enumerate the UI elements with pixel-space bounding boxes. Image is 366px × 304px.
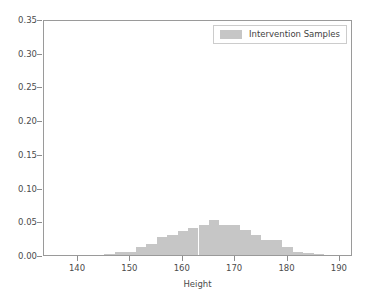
y-tick-label: 0.35 [5, 16, 37, 25]
y-tick-mark [37, 222, 42, 223]
y-tick-mark [37, 20, 42, 21]
histogram-bar [282, 247, 292, 255]
histogram-bar [157, 237, 167, 255]
y-tick-label: 0.30 [5, 49, 37, 58]
y-tick-mark [37, 54, 42, 55]
x-tick-mark [287, 256, 288, 261]
legend-label-intervention-samples: Intervention Samples [249, 30, 340, 39]
y-tick-mark [37, 121, 42, 122]
histogram-bar [240, 230, 250, 255]
x-tick-mark [182, 256, 183, 261]
y-tick-label: 0.05 [5, 218, 37, 227]
y-tick-label: 0.15 [5, 151, 37, 160]
x-tick-mark [339, 256, 340, 261]
histogram-bar [188, 228, 198, 255]
histogram-bar [167, 235, 177, 255]
y-tick-label: 0.20 [5, 117, 37, 126]
histogram-bar [199, 225, 209, 255]
histogram-figure: Intervention Samples 0.000.050.100.150.2… [0, 0, 366, 304]
y-tick-mark [37, 256, 42, 257]
x-tick-mark [77, 256, 78, 261]
x-tick-label: 160 [162, 264, 202, 273]
histogram-bar [104, 254, 114, 255]
y-tick-mark [37, 155, 42, 156]
y-tick-mark [37, 189, 42, 190]
x-tick-label: 190 [319, 264, 359, 273]
histogram-bar [136, 247, 146, 255]
histogram-bar [251, 235, 261, 255]
x-tick-mark [234, 256, 235, 261]
x-tick-label: 140 [57, 264, 97, 273]
y-tick-label: 0.10 [5, 184, 37, 193]
x-tick-label: 150 [109, 264, 149, 273]
x-tick-label: 170 [214, 264, 254, 273]
histogram-bar [125, 252, 135, 255]
histogram-bar [230, 225, 240, 255]
histogram-bar [219, 225, 229, 255]
histogram-bar [303, 253, 313, 255]
histogram-bar [293, 252, 303, 255]
histogram-bar [272, 240, 282, 255]
x-axis-title: Height [43, 280, 352, 289]
x-tick-mark [129, 256, 130, 261]
y-tick-mark [37, 87, 42, 88]
histogram-bar [209, 220, 219, 255]
legend-swatch-intervention-samples [220, 30, 242, 39]
y-tick-label: 0.25 [5, 83, 37, 92]
histogram-bar [146, 244, 156, 255]
x-tick-label: 180 [267, 264, 307, 273]
histogram-bar [178, 231, 188, 255]
histogram-bar [115, 252, 125, 255]
chart-legend: Intervention Samples [213, 25, 347, 44]
y-tick-label: 0.00 [5, 252, 37, 261]
plot-area: Intervention Samples [43, 20, 352, 256]
histogram-bar [314, 254, 324, 255]
histogram-bars [44, 21, 351, 255]
histogram-bar [261, 240, 271, 256]
